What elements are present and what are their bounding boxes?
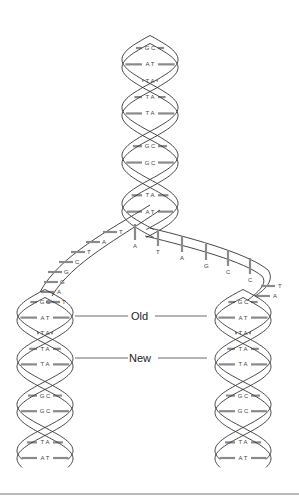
left-base-pair-label: T A: [41, 361, 50, 367]
left-daughter-helix: G CA TT AT AT AG CG CT AA T: [17, 290, 73, 468]
right-unpaired-base-label: T: [156, 249, 160, 255]
right-unpaired-base-label: G: [204, 263, 209, 269]
left-base-pair-label: A T: [41, 455, 50, 461]
parent-base-pair-label: T A: [146, 110, 155, 116]
left-unpaired-base-label: G: [60, 279, 65, 285]
right-base-pair-label: T A: [239, 439, 248, 445]
left-unpaired-base-label: T: [119, 229, 123, 235]
right-base-pair-label: T A: [239, 346, 248, 352]
replication-fork: TATCGGATATAGCCTA: [40, 205, 282, 305]
left-base-pair-label: T A: [41, 346, 50, 352]
parent-base-pair-label: T A: [146, 192, 155, 198]
right-unpaired-base-label: A: [133, 243, 137, 249]
new-strand-callout: New: [75, 352, 207, 364]
right-base-pair-label: A T: [239, 455, 248, 461]
left-unpaired-base-label: C: [75, 259, 80, 265]
left-base-pair-label: A T: [41, 315, 50, 321]
parent-base-pair-label: T A: [146, 94, 155, 100]
parent-double-helix: G CA TT AT AT AG CG CT AA T: [122, 36, 178, 238]
left-unpaired-base-label: G: [64, 269, 69, 275]
parent-base-pair-label: G C: [145, 143, 156, 149]
right-base-pair-label: T A: [239, 361, 248, 367]
right-unpaired-base-label: C: [248, 277, 253, 283]
right-base-pair-label: A T: [239, 315, 248, 321]
right-unpaired-base-label: A: [180, 255, 184, 261]
old-strand-callout: Old: [75, 310, 207, 322]
old-label: Old: [131, 310, 148, 322]
left-unpaired-base-label: T: [87, 249, 91, 255]
right-unpaired-base-label: T: [278, 283, 282, 289]
parent-base-pair-label: T A: [146, 78, 155, 84]
left-unpaired-base-label: A: [102, 239, 106, 245]
parent-base-pair-label: A T: [146, 209, 155, 215]
left-base-pair-label: G C: [40, 408, 51, 414]
left-base-pair-label: T A: [41, 439, 50, 445]
right-fork-strand-outer: [150, 228, 270, 296]
left-unpaired-base-label: A: [57, 289, 61, 295]
left-base-pair-label: G C: [40, 393, 51, 399]
right-daughter-helix: G CA TT AT AT AG CG CT AA T: [215, 290, 271, 468]
parent-base-pair-label: A T: [146, 61, 155, 67]
parent-base-pair-label: G C: [145, 160, 156, 166]
right-unpaired-base-label: C: [226, 269, 231, 275]
right-base-pair-label: G C: [238, 393, 249, 399]
dna-replication-diagram: G CA TT AT AT AG CG CT AA T TATCGGATATAG…: [0, 0, 299, 501]
right-unpaired-base-label: A: [273, 293, 277, 299]
left-fork-strand-inner: [52, 210, 160, 296]
new-label: New: [129, 352, 151, 364]
right-base-pair-label: G C: [238, 408, 249, 414]
